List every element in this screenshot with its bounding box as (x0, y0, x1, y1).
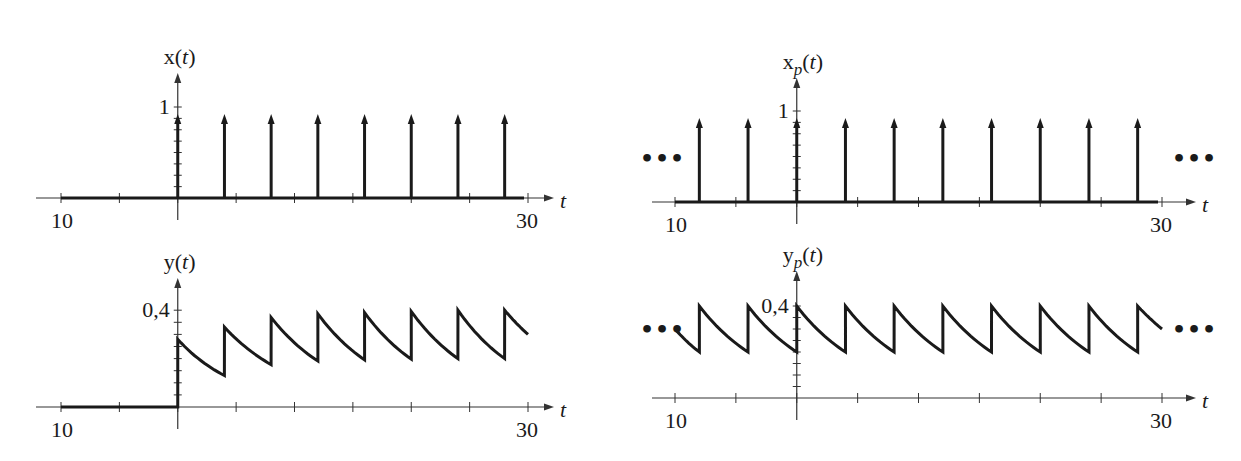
x-tick-label-left: 10 (665, 408, 687, 433)
ellipsis-left-icon: ••• (640, 317, 685, 342)
impulse-arrow-icon (1085, 118, 1092, 128)
impulse-arrow-icon (221, 114, 228, 124)
impulse-arrow-icon (501, 114, 508, 124)
response-curve (61, 310, 528, 407)
impulse-arrow-icon (1134, 118, 1141, 128)
x-tick-label-right: 30 (516, 417, 538, 442)
panel-xp-periodic-impulse-train: 1030t1xp(t)•••••• (640, 49, 1217, 237)
x-tick-label-right: 30 (1150, 408, 1172, 433)
impulse-arrow-icon (842, 118, 849, 128)
y-axis-title: xp(t) (783, 49, 823, 79)
ellipsis-right-icon: ••• (1172, 146, 1217, 171)
y-axis-arrow-icon (174, 278, 181, 288)
panel-y-response: 1030t0,4y(t) (36, 249, 567, 442)
impulse-arrow-icon (793, 118, 800, 128)
y-axis-arrow-icon (793, 78, 800, 88)
panel-yp-periodic-response: 1030t0,4yp(t)•••••• (640, 242, 1217, 433)
response-curve (675, 306, 1162, 352)
x-axis-label: t (1202, 192, 1209, 217)
panel-x-impulse-train: 1030t1x(t) (36, 44, 567, 233)
y-axis-title: yp(t) (783, 242, 823, 272)
impulse-arrow-icon (361, 114, 368, 124)
x-axis-arrow-icon (1186, 395, 1196, 402)
x-tick-label-left: 10 (51, 417, 73, 442)
y-axis-arrow-icon (174, 73, 181, 83)
impulse-arrow-icon (891, 118, 898, 128)
x-tick-label-left: 10 (51, 208, 73, 233)
y-axis-title: x(t) (164, 44, 196, 69)
x-axis-arrow-icon (544, 195, 554, 202)
y-tick-label: 1 (778, 98, 789, 123)
impulse-arrow-icon (1037, 118, 1044, 128)
ellipsis-left-icon: ••• (640, 146, 685, 171)
x-axis-arrow-icon (1186, 199, 1196, 206)
x-axis-label: t (1202, 388, 1209, 413)
y-axis-title: y(t) (164, 249, 196, 274)
impulse-arrow-icon (314, 114, 321, 124)
impulse-arrow-icon (745, 118, 752, 128)
y-tick-label: 0,4 (142, 297, 170, 322)
impulse-arrow-icon (454, 114, 461, 124)
x-tick-label-left: 10 (665, 212, 687, 237)
y-tick-label: 1 (159, 94, 170, 119)
y-axis-arrow-icon (793, 271, 800, 281)
impulse-arrow-icon (408, 114, 415, 124)
ellipsis-right-icon: ••• (1172, 317, 1217, 342)
impulse-arrow-icon (268, 114, 275, 124)
impulse-arrow-icon (939, 118, 946, 128)
x-axis-arrow-icon (544, 404, 554, 411)
impulse-arrow-icon (174, 114, 181, 124)
x-tick-label-right: 30 (1150, 212, 1172, 237)
x-tick-label-right: 30 (516, 208, 538, 233)
figure-canvas: 1030t1x(t) 1030t1xp(t)•••••• 1030t0,4y(t… (0, 0, 1241, 461)
x-axis-label: t (560, 188, 567, 213)
impulse-arrow-icon (696, 118, 703, 128)
y-tick-label: 0,4 (761, 293, 789, 318)
impulse-arrow-icon (988, 118, 995, 128)
x-axis-label: t (560, 397, 567, 422)
